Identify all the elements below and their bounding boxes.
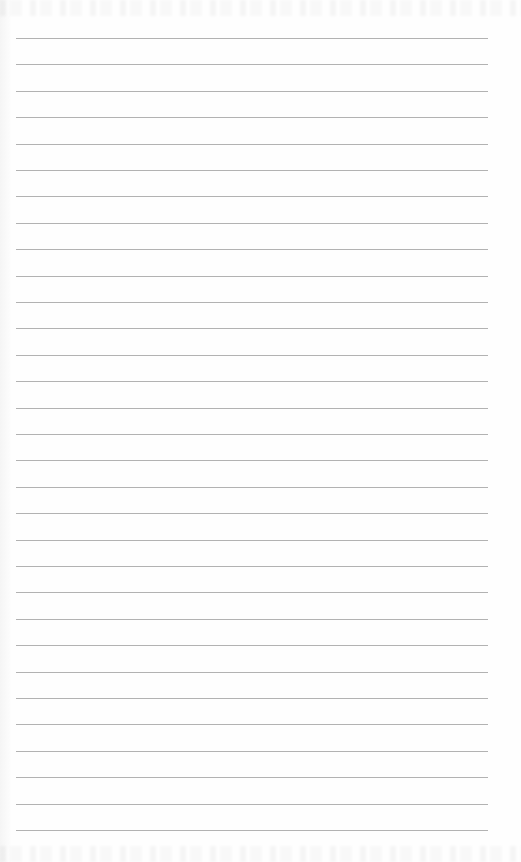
ruled-line bbox=[16, 249, 488, 250]
ruled-line bbox=[16, 381, 488, 382]
ruled-line bbox=[16, 698, 488, 699]
ruled-line bbox=[16, 170, 488, 171]
ruled-line bbox=[16, 830, 488, 831]
ruled-line bbox=[16, 487, 488, 488]
ruled-line bbox=[16, 460, 488, 461]
ruled-line bbox=[16, 276, 488, 277]
ruled-line bbox=[16, 672, 488, 673]
ruled-line bbox=[16, 223, 488, 224]
ruled-line bbox=[16, 196, 488, 197]
ruled-line bbox=[16, 804, 488, 805]
ruled-line bbox=[16, 144, 488, 145]
ruled-line bbox=[16, 408, 488, 409]
ruled-line bbox=[16, 777, 488, 778]
page-edge-shadow bbox=[0, 0, 12, 862]
ruled-line bbox=[16, 592, 488, 593]
ruled-line bbox=[16, 751, 488, 752]
ruled-line bbox=[16, 64, 488, 65]
bleed-through-top bbox=[0, 0, 521, 16]
ruled-line bbox=[16, 117, 488, 118]
notebook-page bbox=[0, 0, 521, 862]
ruled-line bbox=[16, 434, 488, 435]
bleed-through-bottom bbox=[0, 846, 521, 862]
ruled-line bbox=[16, 302, 488, 303]
ruled-line bbox=[16, 328, 488, 329]
ruled-line bbox=[16, 566, 488, 567]
ruled-line bbox=[16, 355, 488, 356]
ruled-line bbox=[16, 513, 488, 514]
ruled-line bbox=[16, 645, 488, 646]
ruled-line bbox=[16, 724, 488, 725]
ruled-line bbox=[16, 38, 488, 39]
ruled-line bbox=[16, 91, 488, 92]
ruled-line bbox=[16, 540, 488, 541]
ruled-line bbox=[16, 619, 488, 620]
